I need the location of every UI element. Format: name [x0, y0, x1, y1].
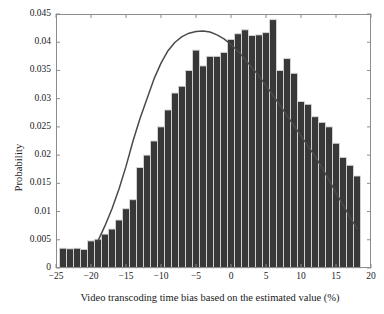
- y-tick-label: 0.005: [6, 234, 51, 244]
- histogram-bar: [144, 155, 151, 268]
- histogram-bar: [242, 30, 249, 268]
- histogram-bar: [340, 157, 347, 268]
- y-tick-label: 0.015: [6, 177, 51, 187]
- x-tick-label: −10: [141, 271, 181, 281]
- histogram-bar: [193, 50, 200, 268]
- histogram-bar: [207, 56, 214, 268]
- histogram-bar: [284, 59, 291, 268]
- histogram-bar: [88, 241, 95, 268]
- x-tick-label: −25: [36, 271, 76, 281]
- x-tick-label: −5: [176, 271, 216, 281]
- histogram-bar: [186, 70, 193, 268]
- histogram-bar: [263, 33, 270, 268]
- plot-area: [0, 0, 384, 314]
- histogram-bar: [333, 143, 340, 268]
- histogram-bar: [291, 73, 298, 268]
- histogram-bar: [67, 249, 74, 268]
- histogram-bar: [109, 229, 116, 268]
- histogram-bar: [200, 66, 207, 268]
- histogram-bar: [165, 110, 172, 268]
- histogram-bar: [312, 117, 319, 268]
- x-tick-label: 20: [351, 271, 384, 281]
- y-tick-label: 0.025: [6, 121, 51, 131]
- histogram-bar: [326, 127, 333, 268]
- histogram-bar: [305, 104, 312, 268]
- histogram-bar: [102, 234, 109, 268]
- histogram-bar: [172, 93, 179, 268]
- histogram-bar: [256, 35, 263, 268]
- histogram-bar: [214, 56, 221, 268]
- x-tick-label: 10: [281, 271, 321, 281]
- histogram-bar: [74, 248, 81, 268]
- histogram-bar: [158, 127, 165, 268]
- histogram-bar: [319, 122, 326, 268]
- histogram-bar: [270, 20, 277, 268]
- histogram-bar: [221, 52, 228, 268]
- histogram-bar: [123, 209, 130, 268]
- x-tick-label: −15: [106, 271, 146, 281]
- y-tick-label: 0.045: [6, 8, 51, 18]
- histogram-bar: [137, 168, 144, 268]
- y-tick-label: 0.035: [6, 64, 51, 74]
- histogram-bar: [130, 200, 137, 268]
- histogram-bar: [179, 86, 186, 268]
- x-tick-label: 0: [211, 271, 251, 281]
- x-tick-label: 15: [316, 271, 356, 281]
- x-axis-title: Video transcoding time bias based on the…: [50, 292, 370, 303]
- histogram-bar: [298, 101, 305, 268]
- y-tick-label: 0.04: [6, 36, 51, 46]
- histogram-bar: [116, 220, 123, 268]
- y-tick-label: 0.02: [6, 149, 51, 159]
- histogram-bar: [354, 176, 361, 268]
- histogram-bar: [151, 141, 158, 268]
- histogram-bar: [277, 70, 284, 268]
- histogram-bar: [228, 39, 235, 268]
- figure-canvas: Probability Video transcoding time bias …: [0, 0, 384, 314]
- x-tick-label: 5: [246, 271, 286, 281]
- y-tick-label: 0.01: [6, 206, 51, 216]
- histogram-bar: [81, 249, 88, 268]
- x-tick-label: −20: [71, 271, 111, 281]
- y-tick-label: 0.03: [6, 93, 51, 103]
- histogram-bar: [60, 248, 67, 268]
- histogram-bar: [95, 239, 102, 268]
- histogram-bar: [235, 34, 242, 268]
